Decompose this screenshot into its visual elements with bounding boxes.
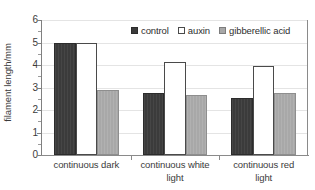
y-axis-minor-tick	[38, 54, 41, 55]
x-axis-tick-label-line: continuous dark	[42, 158, 131, 171]
y-axis-tick-labels: 6543210	[26, 14, 38, 156]
bar-gibberellic-acid-3	[274, 93, 296, 155]
y-axis-major-tick	[37, 110, 41, 111]
bar-series-layer	[42, 20, 308, 155]
bar-gibberellic-acid-2	[186, 95, 208, 155]
legend-entry-auxin: auxin	[178, 25, 210, 36]
x-axis-tick-label: continuous redlight	[219, 158, 308, 184]
x-axis-tick-label: continuous whitelight	[131, 158, 220, 184]
white-filled-square-icon	[178, 27, 185, 34]
y-axis-major-tick	[37, 20, 41, 21]
y-axis-minor-tick	[38, 121, 41, 122]
y-axis-major-tick	[37, 65, 41, 66]
bar-control-3	[231, 98, 253, 155]
legend-label: auxin	[188, 25, 210, 36]
x-axis-tick-label-line: continuous red	[219, 158, 308, 171]
y-axis-major-tick	[37, 133, 41, 134]
bar-control-2	[143, 93, 165, 155]
y-axis-minor-tick	[38, 144, 41, 145]
y-axis-major-tick	[37, 88, 41, 89]
bar-auxin-2	[164, 62, 186, 155]
dark-filled-square-icon	[131, 27, 138, 34]
gray-filled-square-icon	[219, 27, 226, 34]
legend-entry-control: control	[131, 25, 169, 36]
y-axis-minor-tick	[38, 76, 41, 77]
y-axis-minor-tick	[38, 31, 41, 32]
legend-label: control	[141, 25, 169, 36]
bar-gibberellic-acid-1	[97, 90, 119, 155]
x-axis-tick-labels: continuous darkcontinuous whitelightcont…	[42, 158, 308, 190]
legend-entry-gibberellic-acid: gibberellic acid	[219, 25, 290, 36]
y-axis-title: filament length/mm	[1, 5, 15, 160]
bar-control-1	[54, 43, 76, 156]
x-axis-tick-label-line: light	[219, 171, 308, 184]
x-axis-line	[41, 155, 309, 156]
y-axis-minor-tick	[38, 99, 41, 100]
x-axis-tick-label: continuous dark	[42, 158, 131, 171]
chart-legend: controlauxingibberellic acid	[131, 24, 290, 37]
legend-label: gibberellic acid	[229, 25, 290, 36]
bar-auxin-1	[76, 43, 98, 156]
bar-auxin-3	[253, 66, 275, 155]
y-axis-major-tick	[37, 43, 41, 44]
x-axis-tick-label-line: continuous white	[131, 158, 220, 171]
x-axis-tick-label-line: light	[131, 171, 220, 184]
bar-chart-figure: filament length/mm 6543210 continuous da…	[0, 0, 315, 190]
